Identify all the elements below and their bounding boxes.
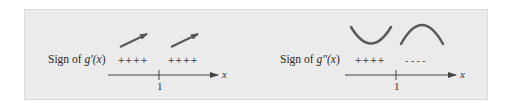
increasing-arrow-icon [120,34,147,47]
number-line-axis [108,70,218,80]
concave-down-curve-icon [401,25,443,44]
increasing-arrow-icon [171,34,198,47]
diagram-graphics [0,0,514,110]
number-line-axis [345,70,456,80]
concave-up-curve-icon [351,27,391,44]
